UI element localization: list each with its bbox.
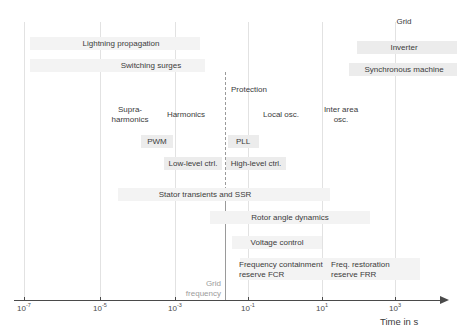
axis-title: Time in s xyxy=(380,316,418,327)
axis-tick-label-5: 101 xyxy=(316,304,328,313)
axis-tick-4 xyxy=(248,297,249,301)
grid-frequency-note: Grid frequency xyxy=(163,279,221,298)
grid-frequency-note-line1: Grid xyxy=(206,279,221,288)
axis-tick-label-2: 10-5 xyxy=(93,304,107,313)
label-lightning-propagation: Lightning propagation xyxy=(83,39,160,49)
label-synchronous-machine: Synchronous machine xyxy=(364,65,443,75)
axis-tick-label-1: 10-7 xyxy=(17,304,31,313)
label-pwm: PWM xyxy=(147,137,167,147)
gridline-1 xyxy=(24,22,25,300)
grid-frequency-line-dashed xyxy=(225,72,227,190)
axis-tick-label-4: 10-1 xyxy=(241,304,255,313)
time-axis xyxy=(14,300,442,301)
label-stator-transients-ssr: Stator transients and SSR xyxy=(159,190,252,200)
grid-frequency-line xyxy=(225,190,226,300)
axis-tick-5 xyxy=(322,297,323,301)
axis-tick-label-6: 103 xyxy=(389,304,401,313)
axis-tick-2 xyxy=(100,297,101,301)
label-low-level-ctrl: Low-level ctrl. xyxy=(169,159,218,169)
label-high-level-ctrl: High-level ctrl. xyxy=(231,159,282,169)
label-protection: Protection xyxy=(231,85,267,95)
axis-tick-6 xyxy=(395,297,396,301)
label-rotor-angle-dynamics: Rotor angle dynamics xyxy=(251,213,328,223)
label-inter-area-osc: Inter areaosc. xyxy=(320,105,362,124)
axis-arrow-icon xyxy=(440,296,449,304)
axis-tick-3 xyxy=(175,297,176,301)
label-grid: Grid xyxy=(396,17,411,27)
label-supra-harmonics: Supra-harmonics xyxy=(102,105,158,124)
label-voltage-control: Voltage control xyxy=(251,238,304,248)
label-harmonics: Harmonics xyxy=(167,110,205,120)
grid-frequency-note-line2: frequency xyxy=(186,289,221,298)
timescale-diagram: Grid Inverter Synchronous machine Lightn… xyxy=(0,0,457,335)
axis-tick-label-3: 10-3 xyxy=(168,304,182,313)
label-inverter: Inverter xyxy=(390,43,417,53)
label-local-osc: Local osc. xyxy=(263,110,299,120)
axis-tick-1 xyxy=(24,297,25,301)
label-switching-surges: Switching surges xyxy=(121,61,181,71)
label-pll: PLL xyxy=(236,137,250,147)
label-frr: Freq. restorationreserve FRR xyxy=(331,260,423,279)
